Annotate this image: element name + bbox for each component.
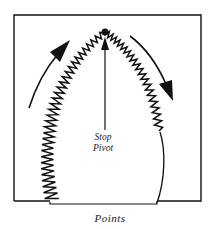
right-arrow-head	[159, 80, 173, 101]
stop-label: Stop	[88, 133, 118, 143]
points-diagram	[0, 0, 218, 229]
frame	[14, 15, 201, 201]
zigzag-stitch-segment	[41, 32, 104, 198]
pivot-point	[102, 29, 109, 36]
left-direction-arrow	[29, 54, 58, 108]
pivot-label: Pivot	[88, 144, 118, 154]
left-arrow-head	[50, 40, 70, 62]
zigzag-stitch-segment	[104, 32, 162, 131]
diagram-caption: Points	[60, 213, 160, 224]
plain-edge-curve	[157, 132, 164, 203]
fabric-bottom-edge	[50, 201, 157, 204]
